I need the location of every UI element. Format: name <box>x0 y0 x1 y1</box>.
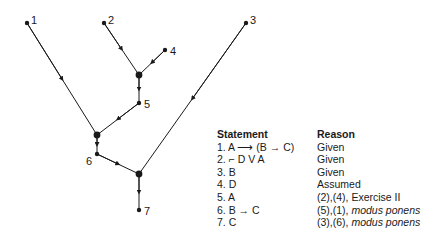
statement: 6. B → C <box>217 204 317 217</box>
proof-table: Statement Reason 1. A ⟶ (B → C)Given 2. … <box>217 128 420 229</box>
node-dot <box>137 208 141 212</box>
proof-diagram-figure: 1234567 Statement Reason 1. A ⟶ (B → C)G… <box>0 0 443 242</box>
junction-dot <box>136 72 143 79</box>
reason: Given <box>317 166 420 179</box>
statement: 7. C <box>217 216 317 229</box>
reason: Assumed <box>317 178 420 191</box>
node-label: 6 <box>86 155 92 167</box>
statement: 1. A ⟶ (B → C) <box>217 141 317 154</box>
arrow-icon <box>27 23 62 79</box>
reason: (3),(6), modus ponens <box>317 216 420 229</box>
node-label: 5 <box>144 98 150 110</box>
node-label: 1 <box>31 14 37 26</box>
node-dot <box>95 152 99 156</box>
node-dot <box>244 21 248 25</box>
proof-row: 3. BGiven <box>217 166 420 179</box>
statement: 4. D <box>217 178 317 191</box>
junction-dot <box>94 132 101 139</box>
proof-row: 6. B → C(5),(1), modus ponens <box>217 204 420 217</box>
node-dot <box>163 48 167 52</box>
statement-header: Statement <box>217 128 317 141</box>
reason: Given <box>317 141 420 154</box>
node-dot <box>137 101 141 105</box>
arrow-icon <box>152 50 165 63</box>
reason: (2),(4), Exercise II <box>317 191 420 204</box>
reason-header: Reason <box>317 128 420 141</box>
arrow-icon <box>193 23 247 99</box>
proof-row: 4. DAssumed <box>217 178 420 191</box>
proof-row: 5. A(2),(4), Exercise II <box>217 191 420 204</box>
proof-row: 2. ⌐ D V AGiven <box>217 153 420 166</box>
junction-dot <box>136 171 143 178</box>
proof-row: 7. C(3),(6), modus ponens <box>217 216 420 229</box>
node-label: 2 <box>108 14 114 26</box>
statement: 2. ⌐ D V A <box>217 153 317 166</box>
reason: (5),(1), modus ponens <box>317 204 420 217</box>
arrow-icon <box>97 154 118 164</box>
reason: Given <box>317 153 420 166</box>
arrow-icon <box>104 23 122 49</box>
proof-row: 1. A ⟶ (B → C)Given <box>217 141 420 154</box>
arrow-icon <box>118 103 139 119</box>
statement: 3. B <box>217 166 317 179</box>
node-dot <box>25 21 29 25</box>
node-label: 3 <box>250 14 256 26</box>
node-label: 4 <box>170 45 176 57</box>
statement: 5. A <box>217 191 317 204</box>
node-dot <box>102 21 106 25</box>
node-label: 7 <box>144 205 150 217</box>
